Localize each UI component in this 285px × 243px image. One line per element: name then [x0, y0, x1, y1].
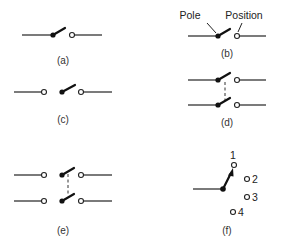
pole-dot: [215, 77, 220, 82]
position-label-4: 4: [238, 206, 244, 218]
position-contact: [42, 90, 47, 95]
position-contact: [79, 199, 84, 204]
panel-d: (d): [188, 73, 266, 128]
position-contact-2: [245, 177, 250, 182]
panel-c: (c): [14, 85, 112, 125]
position-contact: [42, 173, 47, 178]
panel-label-d: (d): [221, 117, 233, 128]
pole-dot: [59, 89, 64, 94]
position-contact-3: [245, 195, 250, 200]
pole-dot: [59, 198, 64, 203]
position-label-1: 1: [230, 149, 236, 161]
panel-a: (a): [22, 28, 102, 66]
panel-label-f: (f): [222, 225, 231, 236]
position-label-2: 2: [252, 173, 258, 185]
panel-label-a: (a): [57, 55, 69, 66]
pole-dot: [215, 33, 220, 38]
panel-label-e: (e): [57, 225, 69, 236]
position-contact: [70, 33, 75, 38]
pole-dot: [50, 32, 55, 37]
position-contact: [79, 90, 84, 95]
switch-diagram: (a) Pole Position (b) (c) (d: [0, 0, 285, 243]
position-pointer: [238, 23, 242, 32]
position-label-3: 3: [252, 191, 258, 203]
position-annotation: Position: [225, 9, 263, 21]
panel-label-b: (b): [221, 48, 233, 59]
position-contact: [235, 34, 240, 39]
position-contact: [79, 173, 84, 178]
position-contact-1: [232, 163, 237, 168]
panel-b: Pole Position (b): [179, 9, 266, 59]
panel-f: 1 2 3 4 (f): [193, 149, 258, 236]
position-contact: [42, 199, 47, 204]
pole-annotation: Pole: [179, 9, 200, 21]
pole-pointer: [207, 23, 216, 33]
pole-dot: [215, 102, 220, 107]
pole-dot: [59, 172, 64, 177]
position-contact: [235, 103, 240, 108]
panel-label-c: (c): [57, 114, 69, 125]
position-contact-4: [231, 210, 236, 215]
pole-dot: [220, 186, 226, 192]
position-contact: [235, 78, 240, 83]
panel-e: (e): [14, 168, 112, 236]
arrow-head-icon: [228, 168, 234, 177]
